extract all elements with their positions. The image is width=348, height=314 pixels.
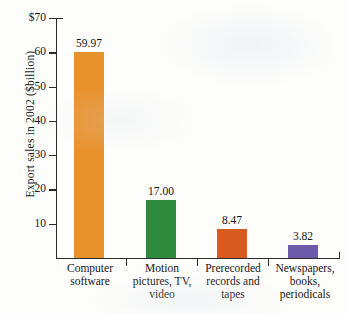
- y-tick-label-40: 40: [6, 115, 46, 126]
- category-label-newspapers-books: Newspapers, books, periodicals: [269, 262, 341, 302]
- bar-value-computer-software: 59.97: [76, 37, 102, 49]
- category-label-line: pictures, TV,: [127, 275, 197, 288]
- bar-motion-pictures: 17.00: [146, 200, 176, 258]
- y-tick-10: [49, 224, 57, 225]
- category-label-line: Computer: [56, 262, 124, 275]
- category-label-prerecorded-records: Prerecorded records and tapes: [198, 262, 268, 302]
- bar-value-prerecorded-records: 8.47: [222, 214, 242, 226]
- plot-area: $70 60 50 40 30 20 10 59.97 17.00 8.47: [0, 0, 348, 314]
- y-tick-label-30: 30: [6, 149, 46, 160]
- bar-rect-computer-software: [74, 52, 104, 258]
- category-label-line: tapes: [198, 288, 268, 301]
- category-label-motion-pictures: Motion pictures, TV, video: [127, 262, 197, 302]
- y-tick-label-60: 60: [6, 46, 46, 57]
- bar-computer-software: 59.97: [74, 52, 104, 258]
- bar-value-newspapers-books: 3.82: [293, 230, 313, 242]
- y-tick-20: [49, 189, 57, 190]
- category-label-line: Newspapers,: [269, 262, 341, 275]
- bar-value-motion-pictures: 17.00: [148, 185, 174, 197]
- category-label-line: video: [127, 288, 197, 301]
- category-label-line: records and: [198, 275, 268, 288]
- y-tick-30: [49, 155, 57, 156]
- y-tick-70: [49, 18, 57, 19]
- y-tick-60: [49, 52, 57, 53]
- y-tick-label-50: 50: [6, 81, 46, 92]
- bar-rect-newspapers-books: [288, 245, 318, 258]
- y-tick-label-70: $70: [6, 12, 46, 23]
- bar-rect-motion-pictures: [146, 200, 176, 258]
- y-tick-label-20: 20: [6, 183, 46, 194]
- category-label-line: software: [56, 275, 124, 288]
- y-tick-40: [49, 121, 57, 122]
- category-label-computer-software: Computer software: [56, 262, 124, 288]
- bar-newspapers-books: 3.82: [288, 245, 318, 258]
- category-label-line: Prerecorded: [198, 262, 268, 275]
- x-axis-right-cap: [339, 252, 340, 259]
- y-axis-top-cap: [56, 18, 63, 19]
- category-label-line: Motion: [127, 262, 197, 275]
- y-tick-label-10: 10: [6, 218, 46, 229]
- y-tick-50: [49, 87, 57, 88]
- category-label-line: periodicals: [269, 288, 341, 301]
- category-label-line: books,: [269, 275, 341, 288]
- bar-chart-figure: Export sales in 2002 ($billion) $70 60 5…: [0, 0, 348, 314]
- bar-prerecorded-records: 8.47: [217, 229, 247, 258]
- bar-rect-prerecorded-records: [217, 229, 247, 258]
